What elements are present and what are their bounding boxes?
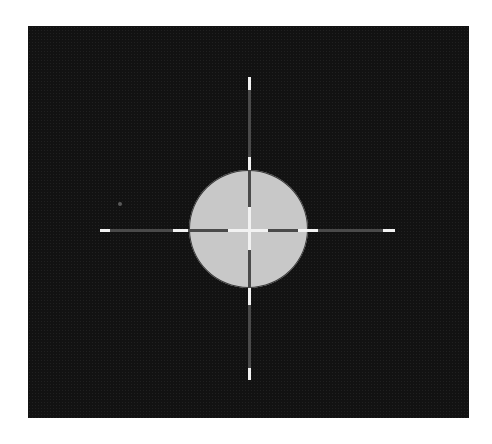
crosshair-bright-segment xyxy=(248,368,251,380)
crosshair-bright-segment xyxy=(248,157,251,170)
crosshair-bright-segment xyxy=(298,229,318,232)
noise-speck xyxy=(118,202,122,206)
crosshair-bright-segment xyxy=(100,229,110,232)
crosshair-bright-segment xyxy=(248,207,251,250)
crosshair-bright-segment xyxy=(248,77,251,90)
crosshair-bright-segment xyxy=(173,229,188,232)
crosshair-bright-segment xyxy=(383,229,395,232)
crosshair-bright-segment xyxy=(248,288,251,305)
